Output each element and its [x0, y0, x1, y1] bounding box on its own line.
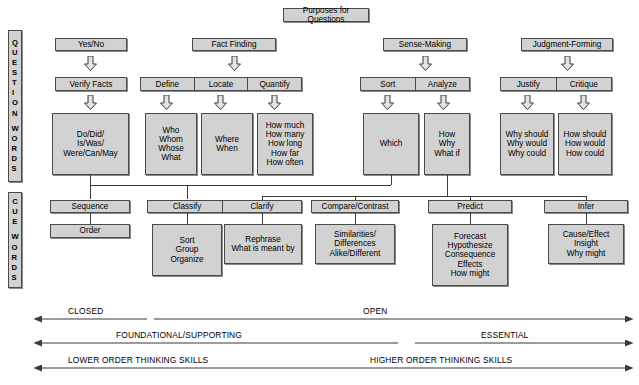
chevron-down-icon-analyze — [437, 95, 450, 110]
chevron-down-icon-fact-finding — [228, 56, 241, 71]
cue-header-infer[interactable]: Infer — [544, 200, 628, 213]
continuum-label-closed: CLOSED — [68, 306, 103, 316]
wordbox-analyze-text: How Why What if — [425, 130, 469, 158]
continuum-label-foundational: FOUNDATIONAL/SUPPORTING — [116, 330, 242, 340]
cue-body-classify[interactable]: Sort Group Organize — [152, 224, 222, 276]
chevron-down-icon-judgment-forming — [561, 56, 574, 71]
chevron-down-icon-sort — [381, 95, 394, 110]
connector-h-right-bus — [262, 196, 586, 197]
connector-v-sequence — [90, 185, 91, 199]
connector-v-classify-body — [187, 213, 188, 224]
connector-v-wordbox-verify — [90, 175, 91, 185]
cue-body-infer-text: Cause/Effect Insight Why might — [549, 230, 623, 258]
wordbox-locate-text: Where When — [202, 135, 252, 153]
category-sort[interactable]: Sort — [361, 78, 416, 90]
connector-v-compare-body — [355, 213, 356, 224]
category-justify[interactable]: Justify — [501, 78, 557, 90]
category-quantify[interactable]: Quantify — [248, 78, 301, 90]
continuum-label-lower-order: LOWER ORDER THINKING SKILLS — [68, 355, 208, 365]
cue-body-predict-text: Forecast Hypothesize Consequence Effects… — [433, 232, 507, 278]
connector-v-classify — [187, 185, 188, 199]
connector-v-analyze — [447, 175, 448, 196]
chevron-down-icon-sense-making — [419, 56, 432, 71]
category-band-yes-no: Verify Facts — [55, 77, 127, 91]
cue-header-clarify[interactable]: Clarify — [222, 200, 302, 213]
connector-v-infer-body — [586, 213, 587, 224]
cue-body-predict[interactable]: Forecast Hypothesize Consequence Effects… — [432, 224, 508, 286]
diagram-title-label: Purposes for Questions — [284, 6, 368, 24]
chevron-down-icon-quantify — [268, 95, 281, 110]
cue-header-sequence[interactable]: Sequence — [50, 200, 130, 213]
category-band-judgment-forming: Justify Critique — [500, 77, 612, 91]
cue-body-clarify[interactable]: Rephrase What is meant by — [224, 224, 302, 264]
wordbox-quantify-text: How much How many How long How far How o… — [258, 121, 312, 167]
category-band-sense-making: Sort Analyze — [360, 77, 470, 91]
chevron-down-icon-justify — [521, 95, 534, 110]
cue-header-classify[interactable]: Classify — [147, 200, 227, 213]
category-locate[interactable]: Locate — [195, 78, 249, 90]
connector-v-clarify-body — [262, 213, 263, 224]
category-band-fact-finding: Define Locate Quantify — [140, 77, 302, 91]
purpose-yes-no[interactable]: Yes/No — [55, 38, 127, 51]
cue-body-infer[interactable]: Cause/Effect Insight Why might — [548, 224, 624, 264]
connector-h-which — [90, 185, 391, 186]
wordbox-define-text: Who Whom Whose What — [146, 126, 196, 163]
wordbox-define[interactable]: Who Whom Whose What — [145, 113, 197, 175]
wordbox-sort[interactable]: Which — [363, 113, 419, 175]
rail-cue-words-letters: CUE — [12, 197, 17, 227]
category-critique[interactable]: Critique — [557, 78, 612, 90]
category-verify-facts[interactable]: Verify Facts — [56, 78, 126, 90]
purpose-fact-finding[interactable]: Fact Finding — [192, 38, 276, 51]
category-analyze[interactable]: Analyze — [416, 78, 470, 90]
connector-v-predict-body — [470, 213, 471, 224]
chevron-down-icon-yes-no — [84, 56, 97, 71]
rail-question-words-letters: QUESTION — [12, 38, 18, 118]
continuum-label-essential: ESSENTIAL — [481, 330, 528, 340]
chevron-down-icon-critique — [577, 95, 590, 110]
wordbox-locate[interactable]: Where When — [201, 113, 253, 175]
connector-v-which — [391, 175, 392, 185]
purpose-sense-making[interactable]: Sense-Making — [383, 38, 467, 51]
connector-v-sequence-body — [90, 213, 91, 224]
wordbox-critique[interactable]: How should How would How could — [558, 113, 612, 175]
purpose-judgment-forming[interactable]: Judgment-Forming — [521, 38, 613, 51]
cue-body-compare-text: Similarities/ Differences Alike/Differen… — [316, 230, 394, 258]
continuum-label-higher-order: HIGHER ORDER THINKING SKILLS — [370, 355, 512, 365]
cue-body-sequence-text: Order — [51, 226, 129, 235]
wordbox-analyze[interactable]: How Why What if — [424, 113, 470, 175]
continuum-label-open: OPEN — [363, 306, 387, 316]
wordbox-sort-text: Which — [364, 139, 418, 148]
wordbox-verify-facts[interactable]: Do/Did/ Is/Was/ Were/Can/May — [52, 113, 129, 175]
diagram-title-box: Purposes for Questions — [283, 8, 369, 22]
cue-header-predict[interactable]: Predict — [428, 200, 512, 213]
wordbox-quantify[interactable]: How much How many How long How far How o… — [257, 113, 313, 175]
chevron-down-icon-define — [160, 95, 173, 110]
cue-body-clarify-text: Rephrase What is meant by — [225, 235, 301, 253]
cue-body-sequence[interactable]: Order — [50, 224, 130, 238]
cue-header-compare-contrast[interactable]: Compare/Contrast — [311, 200, 399, 213]
wordbox-justify-text: Why should Why would Why could — [501, 130, 553, 158]
wordbox-justify[interactable]: Why should Why would Why could — [500, 113, 554, 175]
rail-question-words: QUESTION WORDS — [8, 30, 22, 182]
chevron-down-icon-verify-facts — [84, 95, 97, 110]
rail-cue-words: CUE WORDS — [8, 192, 22, 288]
wordbox-verify-facts-text: Do/Did/ Is/Was/ Were/Can/May — [53, 130, 128, 158]
chevron-down-icon-locate — [214, 95, 227, 110]
category-define[interactable]: Define — [141, 78, 195, 90]
cue-body-compare-contrast[interactable]: Similarities/ Differences Alike/Differen… — [315, 224, 395, 264]
cue-body-classify-text: Sort Group Organize — [153, 236, 221, 264]
diagram-canvas: Purposes for Questions QUESTION WORDS CU… — [0, 0, 639, 385]
wordbox-critique-text: How should How would How could — [559, 130, 611, 158]
